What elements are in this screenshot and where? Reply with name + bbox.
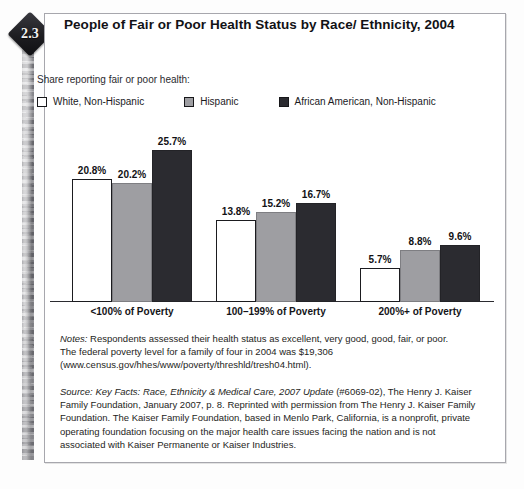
x-axis-label-100-199: 100–199% of Poverty	[226, 306, 326, 317]
x-axis-labels: <100% of Poverty 100–199% of Poverty 200…	[44, 306, 494, 322]
bar-group-100-199: 13.8% 15.2% 16.7%	[216, 120, 336, 302]
bar-value-hispanic-g2: 15.2%	[262, 198, 290, 209]
bar-gray-g1	[112, 183, 152, 302]
chart-subtitle: Share reporting fair or poor health:	[37, 74, 190, 85]
page-title: People of Fair or Poor Health Status by …	[64, 16, 464, 33]
notes-lead-label: Notes:	[60, 333, 87, 344]
bar-slot-white: 5.7%	[360, 120, 400, 302]
legend-label-white: White, Non-Hispanic	[53, 96, 144, 107]
bar-value-african-american-g3: 9.6%	[449, 231, 472, 242]
legend-label-african-american: African American, Non-Hispanic	[295, 96, 436, 107]
notes-body-text: Respondents assessed their health status…	[60, 333, 448, 370]
source-title-text: Key Facts: Race, Ethnicity & Medical Car…	[93, 386, 334, 397]
bar-value-hispanic-g1: 20.2%	[118, 169, 146, 180]
bar-white-g1	[72, 179, 112, 302]
bar-slot-white: 13.8%	[216, 120, 256, 302]
chart-legend: White, Non-Hispanic Hispanic African Ame…	[37, 96, 436, 107]
bar-value-african-american-g2: 16.7%	[302, 189, 330, 200]
bar-group-200-plus: 5.7% 8.8% 9.6%	[360, 120, 480, 302]
bar-value-white-g2: 13.8%	[222, 206, 250, 217]
bar-slot-hispanic: 15.2%	[256, 120, 296, 302]
x-axis-label-under-100: <100% of Poverty	[90, 306, 173, 317]
bar-white-g2	[216, 220, 256, 302]
bar-chart-plot-area: 20.8% 20.2% 25.7% 13.8% 15.2%	[44, 120, 494, 302]
source-lead-label: Source:	[60, 386, 93, 397]
bar-slot-african-american: 9.6%	[440, 120, 480, 302]
bar-slot-hispanic: 8.8%	[400, 120, 440, 302]
legend-item-white: White, Non-Hispanic	[37, 96, 144, 107]
decorative-spine	[22, 40, 34, 460]
legend-label-hispanic: Hispanic	[200, 96, 238, 107]
legend-item-african-american: African American, Non-Hispanic	[279, 96, 436, 107]
bar-white-g3	[360, 268, 400, 302]
bar-value-white-g1: 20.8%	[78, 165, 106, 176]
white-swatch-icon	[37, 97, 47, 107]
notes-block: Notes: Respondents assessed their health…	[60, 332, 460, 372]
bar-black-g3	[440, 245, 480, 302]
gray-swatch-icon	[184, 97, 194, 107]
bar-value-hispanic-g3: 8.8%	[409, 236, 432, 247]
bar-black-g2	[296, 203, 336, 302]
x-axis-label-200-plus: 200%+ of Poverty	[378, 306, 461, 317]
bar-slot-african-american: 25.7%	[152, 120, 192, 302]
bar-gray-g3	[400, 250, 440, 302]
bar-group-under-100: 20.8% 20.2% 25.7%	[72, 120, 192, 302]
legend-item-hispanic: Hispanic	[184, 96, 238, 107]
bar-value-african-american-g1: 25.7%	[158, 136, 186, 147]
source-block: Source: Key Facts: Race, Ethnicity & Med…	[60, 385, 480, 451]
bar-gray-g2	[256, 212, 296, 302]
black-swatch-icon	[279, 97, 289, 107]
bar-black-g1	[152, 150, 192, 302]
figure-page: 2.3 People of Fair or Poor Health Status…	[0, 0, 524, 489]
bar-value-white-g3: 5.7%	[369, 254, 392, 265]
bar-slot-hispanic: 20.2%	[112, 120, 152, 302]
bar-slot-african-american: 16.7%	[296, 120, 336, 302]
bar-slot-white: 20.8%	[72, 120, 112, 302]
